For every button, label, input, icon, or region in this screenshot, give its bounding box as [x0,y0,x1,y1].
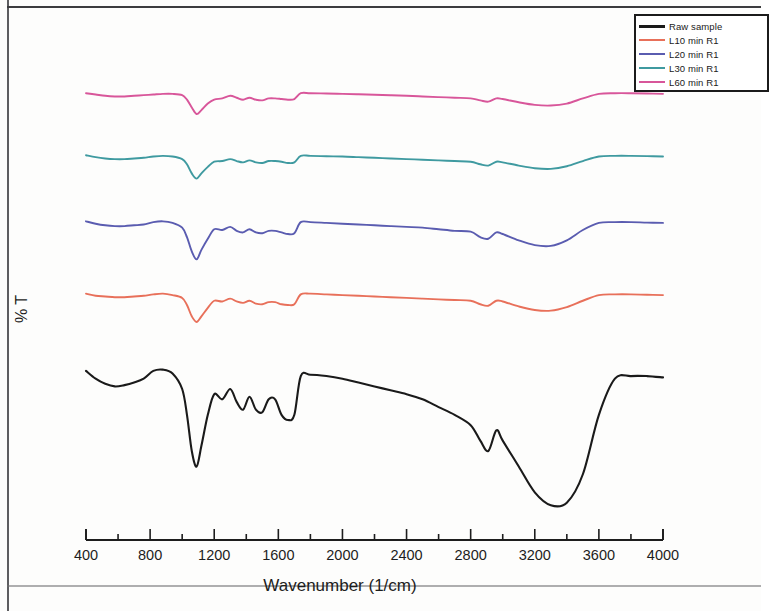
x-tick-label: 3200 [519,547,551,563]
legend-item: L30 min R1 [639,61,767,75]
y-axis-title: % T [13,269,31,349]
series-line [86,221,663,259]
chart-legend: Raw sampleL10 min R1L20 min R1L30 min R1… [634,14,769,92]
x-tick-label: 1600 [262,547,294,563]
legend-label: L30 min R1 [669,63,719,74]
x-tick-label: 2800 [455,547,487,563]
legend-color-swatch [639,53,665,55]
legend-item: L10 min R1 [639,33,767,47]
x-tick-label: 400 [74,547,98,563]
series-line [86,155,663,178]
legend-label: L10 min R1 [669,35,719,46]
legend-item: L60 min R1 [639,75,767,89]
x-tick-label: 1200 [198,547,230,563]
x-tick-labels: 40080012001600200024002800320036004000 [74,547,679,563]
legend-color-swatch [639,39,665,41]
series-line [86,93,663,114]
x-tick-label: 4000 [647,547,679,563]
series-line [86,293,663,322]
series-layer [86,93,663,507]
x-axis-title: Wavenumber (1/cm) [0,576,680,596]
legend-item: L20 min R1 [639,47,767,61]
legend-label: Raw sample [669,21,722,32]
x-axis [86,529,663,540]
x-tick-label: 2000 [326,547,358,563]
series-line [86,369,663,506]
legend-item: Raw sample [639,19,767,33]
legend-color-swatch [639,81,665,83]
legend-color-swatch [639,25,665,28]
legend-label: L60 min R1 [669,77,719,88]
legend-color-swatch [639,67,665,69]
x-tick-label: 800 [138,547,162,563]
x-tick-label: 2400 [390,547,422,563]
x-tick-label: 3600 [583,547,615,563]
legend-label: L20 min R1 [669,49,719,60]
